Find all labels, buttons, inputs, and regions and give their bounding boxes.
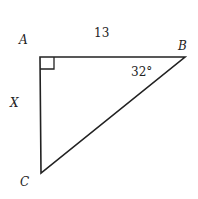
side-ab-length: 13 xyxy=(94,26,109,40)
angle-b-measure: 32° xyxy=(131,65,152,79)
side-ac-length: X xyxy=(9,96,19,110)
triangle-diagram: A B C 13 X 32° xyxy=(0,0,198,199)
vertex-label-c: C xyxy=(20,175,29,189)
vertex-label-b: B xyxy=(177,39,187,53)
triangle-abc xyxy=(40,57,185,173)
right-angle-marker xyxy=(40,57,54,69)
vertex-label-a: A xyxy=(18,33,28,47)
